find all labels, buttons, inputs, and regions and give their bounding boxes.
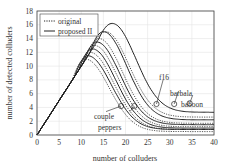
x-tick-label: 25 — [144, 138, 152, 147]
x-axis-label: number of colluders — [93, 154, 157, 163]
y-axis-label: number of detected colluders — [5, 26, 14, 119]
y-tick-label: 0 — [29, 131, 33, 140]
line-chart: 0510152025303540024681012141618 couplepe… — [0, 0, 229, 168]
legend-entry: original — [58, 17, 81, 26]
y-tick-label: 2 — [29, 117, 33, 126]
y-tick-label: 4 — [29, 103, 33, 112]
annotation-baboon: baboon — [181, 100, 203, 109]
y-tick-label: 6 — [29, 89, 33, 98]
y-tick-label: 8 — [29, 75, 33, 84]
y-tick-label: 18 — [26, 7, 34, 16]
y-tick-label: 12 — [26, 48, 34, 57]
y-tick-label: 10 — [26, 62, 34, 71]
y-tick-label: 14 — [26, 34, 34, 43]
x-tick-label: 35 — [188, 138, 196, 147]
legend-entry: proposed II — [58, 27, 93, 36]
x-tick-label: 20 — [122, 138, 130, 147]
y-tick-label: 16 — [26, 20, 34, 29]
annotation-barbala: barbala — [170, 89, 193, 98]
x-tick-label: 10 — [78, 138, 86, 147]
x-tick-label: 5 — [57, 138, 61, 147]
x-tick-label: 40 — [210, 138, 218, 147]
annotation-f16: f16 — [159, 73, 169, 82]
annotation-peppers: peppers — [98, 123, 121, 132]
x-tick-label: 30 — [166, 138, 174, 147]
legend: originalproposed II — [40, 14, 98, 36]
annotation-couple: couple — [94, 112, 115, 121]
x-tick-label: 15 — [100, 138, 108, 147]
x-tick-label: 0 — [35, 138, 39, 147]
